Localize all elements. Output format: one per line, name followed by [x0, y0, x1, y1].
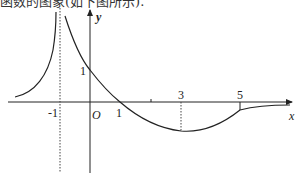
- tick-label-x-1: 1: [116, 106, 122, 120]
- function-graph: y x O -1 1 3 5 1: [0, 0, 297, 174]
- tick-label-x-3: 3: [178, 88, 184, 102]
- origin-label: O: [92, 108, 101, 122]
- tick-label-y-1: 1: [80, 64, 86, 78]
- tick-label-x-neg1: -1: [48, 106, 58, 120]
- tick-label-x-5: 5: [237, 88, 243, 102]
- x-axis-label: x: [288, 109, 295, 123]
- y-axis-label: y: [94, 10, 102, 24]
- curve-left-branch: [15, 12, 56, 97]
